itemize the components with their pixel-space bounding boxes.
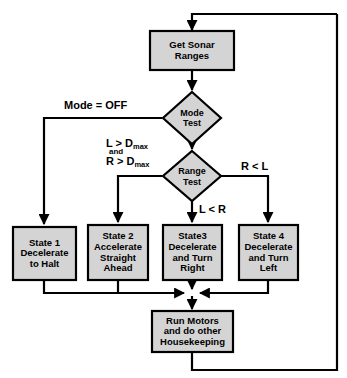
shape-mode-test[interactable] [163, 92, 221, 144]
edge-label-line-2: R > Dmax [106, 156, 149, 168]
edge-r-less-l-to-state-4 [218, 176, 268, 222]
edge-label-r-less-l: R < L [241, 161, 268, 172]
edge-state-1-to-merge [44, 280, 184, 293]
shape-get-sonar-ranges[interactable] [150, 31, 234, 70]
shape-run-motors[interactable] [152, 311, 233, 352]
edge-label-range-both-max: L > Dmax and R > Dmax [106, 138, 149, 167]
cond-text: R > D [106, 155, 134, 167]
subscript-max: max [134, 160, 149, 169]
shape-state-4[interactable] [239, 225, 298, 280]
edge-mode-off-to-state-1 [44, 118, 162, 224]
shape-state-2[interactable] [88, 225, 148, 280]
flowchart-graphics [0, 0, 347, 378]
subscript-max: max [133, 142, 148, 151]
shape-state-1[interactable] [13, 227, 76, 280]
flow-shapes [13, 31, 298, 352]
edge-range-clear-to-state-2 [118, 176, 162, 222]
shape-state-3[interactable] [163, 225, 222, 280]
edge-label-l-less-r: L < R [199, 204, 226, 215]
edge-state-4-to-merge [200, 280, 268, 293]
edge-feedback-to-get-sonar [192, 14, 337, 30]
flowchart-canvas: Get Sonar Ranges Mode Test Range Test St… [0, 0, 347, 378]
shape-range-test[interactable] [163, 151, 221, 201]
edge-label-mode-off: Mode = OFF [64, 100, 127, 111]
